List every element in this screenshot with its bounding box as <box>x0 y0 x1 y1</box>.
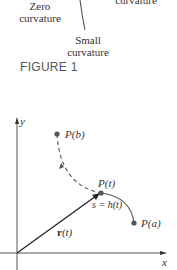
vector-label-rest: (t) <box>62 226 72 238</box>
point-pb-label: P(b) <box>65 128 85 140</box>
curve-fragment <box>80 0 85 30</box>
figure-graphics <box>0 0 177 270</box>
point-pb <box>54 131 59 136</box>
position-vector <box>17 196 96 253</box>
point-pa <box>131 220 136 225</box>
point-pt <box>98 190 103 195</box>
point-pt-label: P(t) <box>98 177 115 189</box>
point-pa-label: P(a) <box>141 217 161 229</box>
arc-length-label: s = h(t) <box>92 199 122 211</box>
x-axis-arrow-icon <box>160 251 167 255</box>
y-axis-label: y <box>20 115 25 127</box>
vector-label: r(t) <box>57 226 72 238</box>
x-axis-label: x <box>162 256 167 268</box>
dashed-curve <box>57 134 101 193</box>
y-axis-arrow-icon <box>15 117 19 124</box>
